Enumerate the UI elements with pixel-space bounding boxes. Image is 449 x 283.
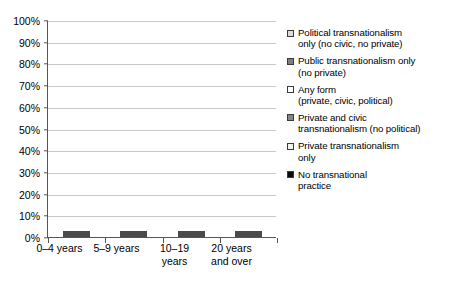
legend-swatch-icon (287, 143, 294, 150)
legend-item[interactable]: Private transnationalism only (287, 140, 447, 163)
y-tick-label: 80% (19, 58, 40, 70)
legend-item[interactable]: No transnational practice (287, 169, 447, 192)
bar-segment (64, 236, 89, 237)
y-tick-label: 20% (19, 189, 40, 201)
legend-label: Political transnationalism only (no civi… (298, 27, 402, 50)
plot-area (47, 21, 276, 238)
y-tick-mark (44, 64, 48, 65)
y-tick-mark (44, 107, 48, 108)
y-tick-mark (44, 172, 48, 173)
bar-segment (121, 236, 146, 237)
legend-swatch-icon (287, 171, 294, 178)
gridline (48, 195, 276, 196)
legend-swatch-icon (287, 86, 294, 93)
y-tick-mark (44, 216, 48, 217)
bar-segment (179, 236, 204, 237)
y-tick-label: 100% (13, 15, 40, 27)
gridline (48, 216, 276, 217)
stacked-bar-chart: 0% 10% 20% 30% 40% 50% 60% 70% 80% 90% 1… (0, 0, 449, 283)
legend-swatch-icon (287, 58, 294, 65)
y-tick-mark (44, 42, 48, 43)
bar-segment (236, 236, 261, 237)
y-tick-mark (44, 129, 48, 130)
x-tick-mark (277, 238, 278, 243)
legend-label: Private and civic transnationalism (no p… (298, 112, 420, 135)
bar-5-9-years[interactable] (120, 231, 147, 237)
bar-10-19-years[interactable] (178, 231, 205, 237)
y-tick-label: 30% (19, 167, 40, 179)
y-tick-label: 90% (19, 37, 40, 49)
y-tick-mark (44, 85, 48, 86)
gridline (48, 151, 276, 152)
legend-label: Private transnationalism only (298, 140, 399, 163)
legend-swatch-icon (287, 114, 294, 121)
y-tick-label: 40% (19, 145, 40, 157)
legend-item[interactable]: Political transnationalism only (no civi… (287, 27, 447, 50)
gridline (48, 173, 276, 174)
gridline (48, 43, 276, 44)
gridline (48, 130, 276, 131)
legend-swatch-icon (287, 30, 294, 37)
gridline (48, 21, 276, 22)
gridline (48, 108, 276, 109)
x-axis-label-20-years-and-over: 20 years and over (194, 242, 269, 267)
legend-label: Public transnationalism only (no private… (298, 55, 415, 78)
y-tick-mark (44, 150, 48, 151)
y-tick-label: 70% (19, 80, 40, 92)
y-axis: 0% 10% 20% 30% 40% 50% 60% 70% 80% 90% 1… (0, 21, 44, 238)
y-tick-label: 60% (19, 102, 40, 114)
y-tick-mark (44, 194, 48, 195)
gridline (48, 64, 276, 65)
legend-label: No transnational practice (298, 169, 367, 192)
legend-label: Any form (private, civic, political) (298, 84, 393, 107)
y-tick-mark (44, 20, 48, 21)
bar-20-years-and-over[interactable] (235, 231, 262, 237)
legend-item[interactable]: Public transnationalism only (no private… (287, 55, 447, 78)
legend-item[interactable]: Private and civic transnationalism (no p… (287, 112, 447, 135)
legend-item[interactable]: Any form (private, civic, political) (287, 84, 447, 107)
y-tick-label: 50% (19, 124, 40, 136)
bar-0-4-years[interactable] (63, 231, 90, 237)
legend: Political transnationalism only (no civi… (287, 27, 447, 197)
gridline (48, 86, 276, 87)
y-tick-label: 10% (19, 210, 40, 222)
